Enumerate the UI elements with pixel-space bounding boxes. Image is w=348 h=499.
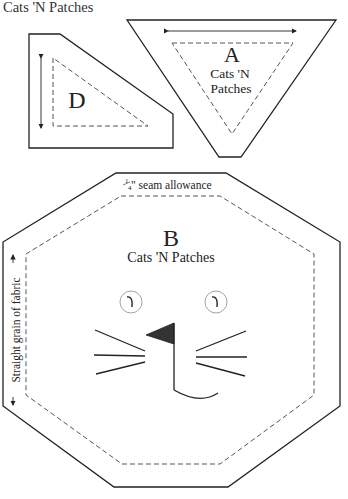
left-whisker-top [95, 330, 145, 351]
left-eye-icon [120, 291, 142, 313]
piece-b-label: Cats 'N Patches [127, 250, 214, 265]
mouth [174, 390, 218, 398]
pattern-sheet: D A Cats 'N Patches 1 4 " seam allowance… [0, 0, 348, 499]
piece-a-label-line1: Cats 'N [210, 66, 250, 81]
cat-face [94, 291, 247, 398]
right-eye-pupil [212, 297, 217, 307]
piece-d-letter: D [68, 87, 85, 113]
nose-icon [146, 323, 174, 344]
right-whisker-bottom [196, 363, 245, 376]
grain-label-text: Straight grain of fabric [10, 277, 23, 382]
grain-label: Straight grain of fabric [9, 254, 23, 406]
piece-a: A Cats 'N Patches [127, 20, 336, 157]
seam-allowance-text: " seam allowance [131, 179, 212, 191]
left-eye-pupil [127, 297, 132, 307]
piece-d-seam-line [53, 58, 148, 126]
right-whisker-top [196, 331, 246, 351]
piece-d-cut-line [29, 34, 173, 148]
piece-b-letter: B [163, 225, 179, 251]
seam-allowance-label: 1 4 " seam allowance [118, 176, 228, 192]
piece-d: D [29, 34, 173, 148]
piece-a-letter: A [224, 42, 240, 67]
right-eye-icon [205, 291, 227, 313]
piece-a-label-line2: Patches [210, 81, 251, 96]
left-whisker-bottom [96, 362, 145, 374]
left-whisker-middle [94, 355, 145, 356]
piece-b: 1 4 " seam allowance Straight grain of f… [3, 173, 340, 487]
